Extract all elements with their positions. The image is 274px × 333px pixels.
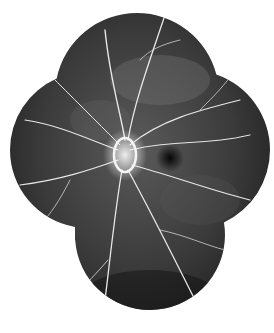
retinal-angiogram-montage bbox=[0, 0, 274, 333]
fovea bbox=[156, 144, 184, 172]
fundus-fields bbox=[0, 0, 274, 333]
